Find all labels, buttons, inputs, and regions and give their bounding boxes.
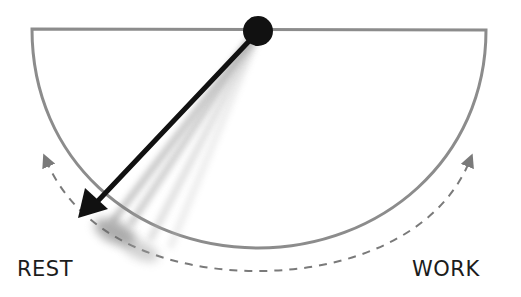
swing-dashed-arrow [46,160,470,271]
pendulum-diagram [0,0,521,297]
motion-blur-trails [90,40,256,267]
label-rest: REST [17,257,73,281]
pivot-dot [243,16,273,46]
bowl-outline [32,29,486,248]
label-work: WORK [412,257,480,281]
pendulum-arrow [78,38,252,218]
